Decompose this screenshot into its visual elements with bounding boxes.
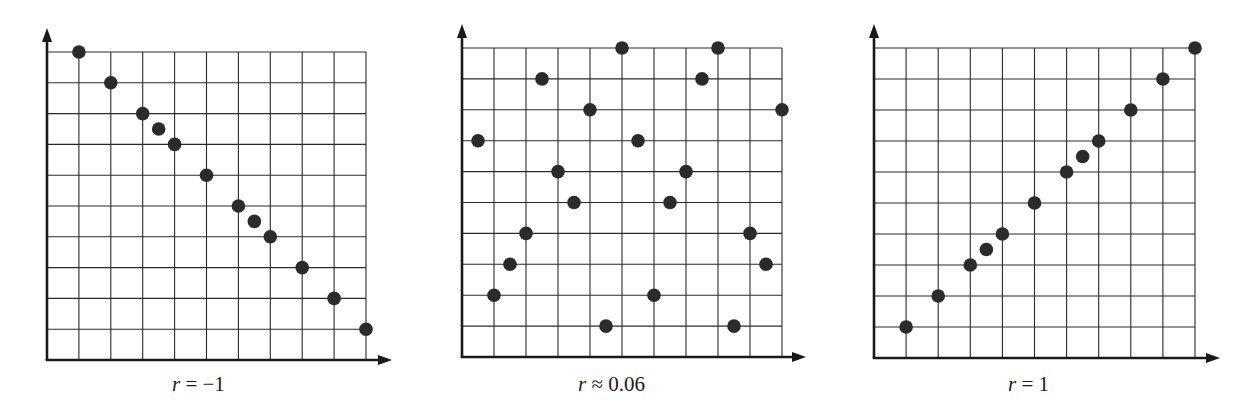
data-point [964, 258, 978, 272]
data-point [1028, 196, 1042, 210]
x-axis-arrow-icon [1206, 353, 1220, 363]
data-point [1188, 41, 1202, 55]
data-point [931, 289, 945, 303]
data-point [899, 320, 913, 334]
data-points [899, 41, 1201, 334]
data-point [1060, 165, 1074, 179]
data-point [980, 243, 994, 257]
data-point [996, 227, 1010, 241]
y-axis-arrow-icon [869, 24, 879, 38]
correlation-caption: r = 1 [1008, 372, 1049, 397]
caption-value: = 1 [1016, 372, 1049, 396]
data-point [1124, 103, 1138, 117]
data-point [1156, 72, 1170, 86]
plot-area [0, 0, 1245, 417]
data-point [1092, 134, 1106, 148]
caption-variable: r [1008, 372, 1016, 396]
data-point [1076, 150, 1090, 164]
